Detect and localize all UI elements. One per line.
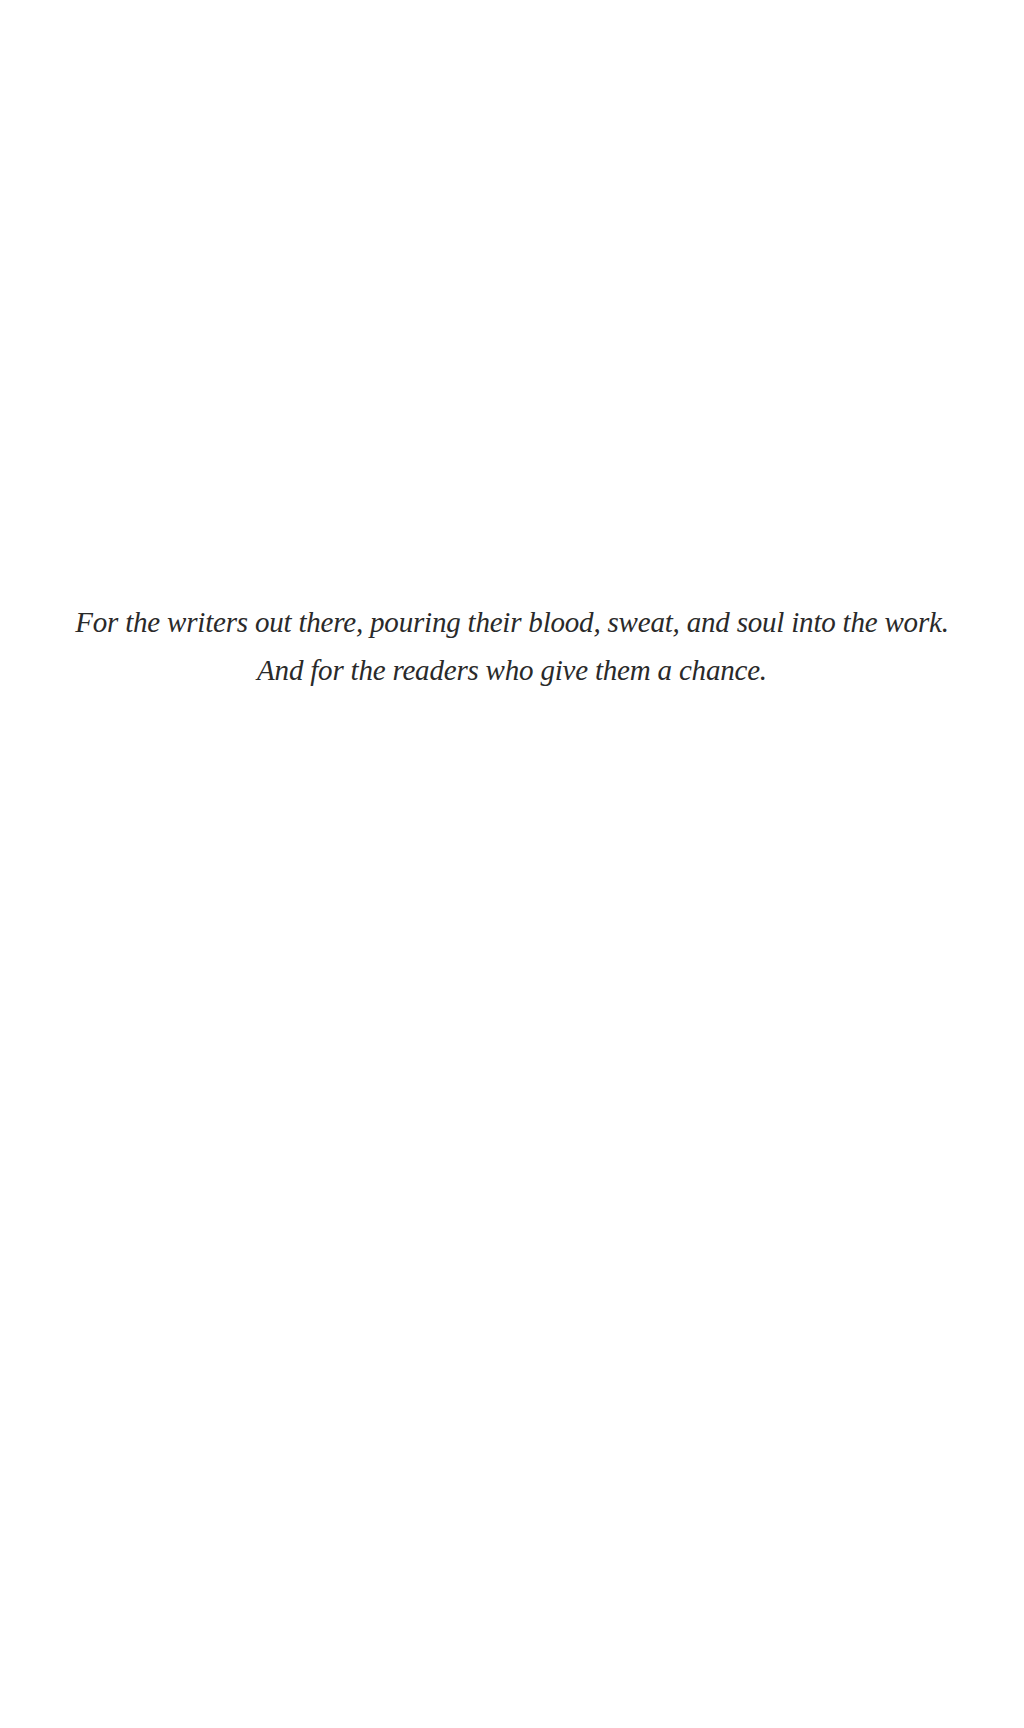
dedication-text: For the writers out there, pouring their… [0, 598, 1024, 694]
dedication-line-2: And for the readers who give them a chan… [0, 646, 1024, 694]
book-page: For the writers out there, pouring their… [0, 0, 1024, 1728]
dedication-line-1: For the writers out there, pouring their… [0, 598, 1024, 646]
